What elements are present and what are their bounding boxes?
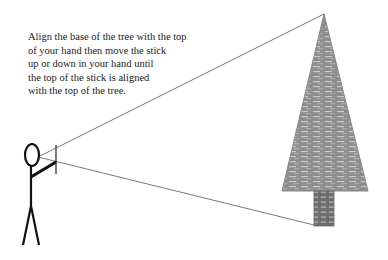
diagram-canvas [0, 0, 388, 260]
sight-line-bottom [38, 157, 314, 225]
sight-line-top [38, 14, 324, 157]
stick-figure-icon [23, 144, 56, 245]
tree-icon [282, 14, 368, 226]
